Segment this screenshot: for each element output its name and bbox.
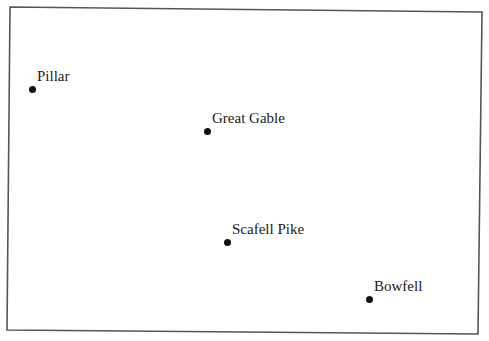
peak-label: Great Gable [212, 111, 285, 126]
peak-label: Pillar [37, 69, 70, 84]
peak-label: Scafell Pike [232, 222, 304, 237]
peak-label: Bowfell [374, 279, 422, 294]
location-marker-icon [29, 86, 36, 93]
map-canvas: Pillar Great Gable Scafell Pike Bowfell [0, 0, 489, 341]
location-marker-icon [366, 296, 373, 303]
location-marker-icon [224, 239, 231, 246]
location-marker-icon [204, 128, 211, 135]
